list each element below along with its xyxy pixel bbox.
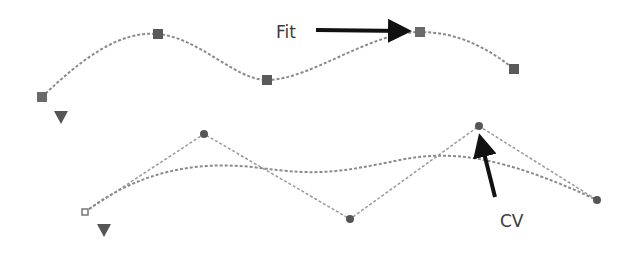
cv-label: CV [500,211,524,231]
fit-point-3[interactable] [262,75,272,85]
cv-arrow-icon [481,141,495,197]
cv-point-4[interactable] [475,122,483,130]
cv-curve [85,156,597,212]
cv-point-1[interactable] [82,209,88,215]
cv-point-5[interactable] [593,196,601,204]
cv-point-2[interactable] [200,130,208,138]
cv-start-triangle-icon [97,224,111,237]
fit-start-triangle-icon [54,111,68,124]
fit-point-1[interactable] [37,92,47,102]
fit-point-5[interactable] [509,64,519,74]
fit-label: Fit [276,22,296,42]
curve-diagram: Fit CV [0,0,629,255]
fit-point-4[interactable] [415,27,425,37]
fit-point-2[interactable] [153,29,163,39]
cv-point-3[interactable] [346,215,354,223]
fit-arrow-icon [316,30,404,31]
